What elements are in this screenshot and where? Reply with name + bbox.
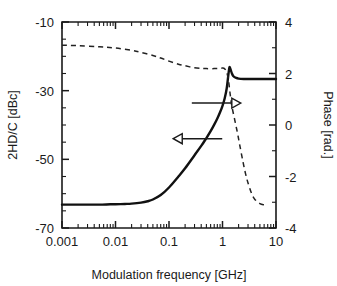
- right-axis-title: Phase [rad.]: [321, 91, 335, 158]
- x-tick-label: 0.01: [103, 234, 128, 249]
- x-tick-label: 0.001: [46, 234, 79, 249]
- chart-canvas: 0.0010.010.1110 -70-50-30-10 -4-2024 Mod…: [0, 0, 337, 286]
- right-tick-label: 2: [285, 67, 292, 82]
- left-tick-label: -50: [35, 152, 54, 167]
- x-tick-label: 1: [219, 234, 226, 249]
- right-tick-label: 0: [285, 118, 292, 133]
- right-tick-label: -4: [285, 221, 297, 236]
- left-axis-title: 2HD/C [dBc]: [6, 90, 20, 159]
- left-tick-label: -30: [35, 84, 54, 99]
- left-tick-label: -70: [35, 221, 54, 236]
- x-axis-title: Modulation frequency [GHz]: [92, 268, 247, 282]
- right-tick-label: 4: [285, 15, 292, 30]
- x-tick-label: 0.1: [160, 234, 178, 249]
- x-tick-label: 10: [269, 234, 283, 249]
- left-tick-label: -10: [35, 15, 54, 30]
- chart-figure: 0.0010.010.1110 -70-50-30-10 -4-2024 Mod…: [0, 0, 337, 286]
- right-tick-label: -2: [285, 170, 297, 185]
